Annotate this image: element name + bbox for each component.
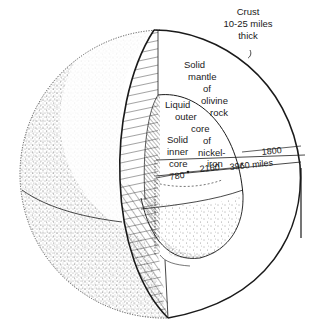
crust-pointer xyxy=(248,50,251,58)
earth-cutaway-diagram: Crust 10-25 miles thick Solid mantle of … xyxy=(0,0,319,334)
svg-text:core: core xyxy=(191,123,209,134)
svg-text:rock: rock xyxy=(210,107,228,118)
mantle-thickness: 1800 xyxy=(261,145,282,157)
svg-text:core: core xyxy=(169,158,187,169)
mantle-label: Solid mantle of olivine rock xyxy=(184,59,228,118)
svg-text:Crust: Crust xyxy=(237,6,260,17)
svg-text:inner: inner xyxy=(167,146,188,157)
earth-radius: 3960 miles xyxy=(229,157,274,172)
crust-label: Crust 10-25 miles thick xyxy=(223,6,272,41)
inner-core-radius: 780 xyxy=(169,170,185,182)
svg-text:of: of xyxy=(203,83,211,94)
inner-core-label: Solid inner core xyxy=(167,134,188,169)
svg-text:Solid: Solid xyxy=(184,59,205,70)
svg-text:thick: thick xyxy=(238,30,258,41)
svg-text:10-25 miles: 10-25 miles xyxy=(223,18,272,29)
outer-core-thickness: 2160 xyxy=(199,162,220,174)
svg-text:mantle: mantle xyxy=(188,71,217,82)
svg-text:Liquid: Liquid xyxy=(165,99,190,110)
svg-text:Solid: Solid xyxy=(167,134,188,145)
svg-text:of: of xyxy=(203,135,211,146)
svg-text:nickel-: nickel- xyxy=(198,147,225,158)
svg-text:outer: outer xyxy=(175,111,197,122)
svg-text:olivine: olivine xyxy=(201,95,228,106)
